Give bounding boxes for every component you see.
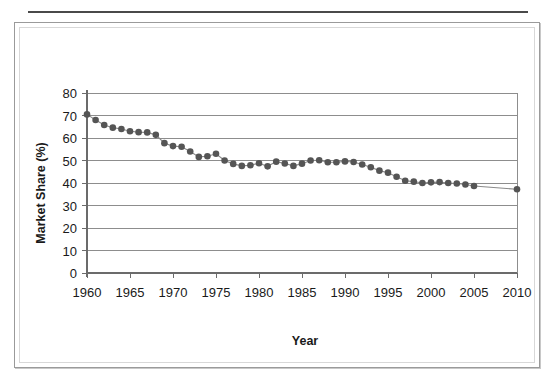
data-point [299,160,306,167]
data-point [264,163,271,170]
data-point [428,179,435,186]
market-share-chart-svg: Market Share (%) Year 01020304050607080 … [15,23,541,369]
series-line-0 [87,114,517,189]
y-tick-label-20: 20 [63,221,77,236]
data-point [385,169,392,176]
data-point [282,160,289,167]
data-point [273,158,280,165]
data-point [239,163,246,170]
data-point [221,157,228,164]
y-axis-title: Market Share (%) [34,142,48,243]
data-point [204,153,211,160]
x-tick-label-2000: 2000 [417,285,446,300]
y-tick-labels-group: 01020304050607080 [63,86,77,281]
data-point [230,161,237,168]
data-point [454,180,461,187]
data-point [247,162,254,169]
data-point [462,181,469,188]
data-point [359,161,366,168]
x-tick-labels-group: 1960196519701975198019851990199520002005… [73,285,532,300]
y-tick-label-80: 80 [63,86,77,101]
y-tick-label-40: 40 [63,176,77,191]
x-tick-label-1995: 1995 [374,285,403,300]
data-point [256,160,263,167]
x-tick-label-1975: 1975 [202,285,231,300]
data-point [153,132,160,139]
series-markers-group [84,111,521,193]
x-tick-label-1965: 1965 [116,285,145,300]
data-point [325,159,332,166]
y-tick-label-30: 30 [63,199,77,214]
x-axis-title: Year [292,334,319,348]
y-tick-label-0: 0 [70,266,77,281]
x-tick-marks-group [87,273,517,278]
data-point [127,128,134,135]
chart-area: Market Share (%) Year 01020304050607080 … [15,23,541,369]
x-tick-label-1970: 1970 [159,285,188,300]
x-tick-label-2005: 2005 [460,285,489,300]
data-point [213,150,220,157]
data-point [436,179,443,186]
data-point [333,159,340,166]
data-point [135,129,142,136]
data-point [92,117,99,124]
x-tick-label-2010: 2010 [503,285,532,300]
data-point [445,180,452,187]
data-point [376,167,383,174]
data-point [170,143,177,150]
data-point [290,163,297,170]
x-tick-label-1990: 1990 [331,285,360,300]
data-point [178,143,185,150]
y-tick-label-50: 50 [63,154,77,169]
data-point [393,173,400,180]
y-tick-label-60: 60 [63,131,77,146]
series-line-group [87,114,517,189]
data-point [514,186,521,193]
data-point [368,164,375,171]
data-point [307,157,314,164]
y-tick-marks-group [82,93,87,273]
page-root: Market Share (%) Year 01020304050607080 … [0,0,556,387]
x-tick-label-1960: 1960 [73,285,102,300]
data-point [316,157,323,164]
data-point [419,180,426,187]
top-horizontal-rule [28,11,528,13]
y-tick-label-70: 70 [63,109,77,124]
data-point [84,111,91,118]
data-point [110,124,117,131]
data-point [161,140,168,147]
figure-container: Market Share (%) Year 01020304050607080 … [14,22,540,368]
data-point [342,158,349,165]
y-tick-label-10: 10 [63,244,77,259]
data-point [411,178,418,185]
data-point [402,177,409,184]
x-tick-label-1985: 1985 [288,285,317,300]
data-point [187,148,194,155]
data-point [144,129,151,136]
data-point [118,126,125,133]
data-point [471,183,478,190]
data-point [196,154,203,161]
x-tick-label-1980: 1980 [245,285,274,300]
data-point [101,122,108,129]
data-point [350,159,357,166]
